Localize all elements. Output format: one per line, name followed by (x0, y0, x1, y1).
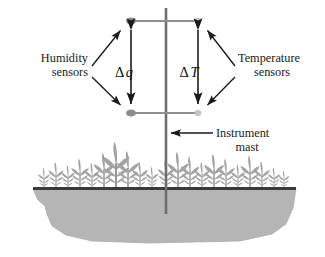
sensor-humidity-upper (126, 17, 136, 24)
plant (254, 161, 270, 188)
plant (279, 170, 290, 188)
svg-text:ΔT: ΔT (179, 64, 199, 80)
leader-humidity-to-lower (92, 77, 121, 105)
svg-text:Δq: Δq (115, 64, 133, 80)
plant (38, 168, 50, 188)
instrument-mast-label: Instrument mast (216, 126, 270, 154)
delta-t-variable: T (190, 64, 199, 80)
leader-temperature-to-lower (208, 77, 236, 105)
instrument-mast-label-line1: Instrument (216, 126, 270, 140)
soil-body (33, 189, 296, 243)
humidity-label-line1: Humidity (41, 51, 89, 65)
plant (146, 167, 159, 188)
delta-t-symbol: Δ (179, 64, 188, 80)
delta-q-variable: q (126, 64, 133, 80)
sensor-humidity-lower (126, 109, 136, 116)
temperature-label-line1: Temperature (238, 51, 300, 65)
delta-q-label: Δq (115, 64, 133, 80)
temperature-sensors-label: Temperature sensors (238, 51, 300, 79)
humidity-sensors-label: Humidity sensors (41, 51, 89, 79)
leader-temperature-to-upper (208, 31, 236, 67)
sensor-temperature-upper (195, 18, 202, 24)
delta-q-symbol: Δ (115, 64, 124, 80)
temperature-label-line2: sensors (254, 65, 290, 79)
plant (102, 142, 130, 188)
instrument-mast-label-line2: mast (235, 140, 259, 154)
plant (48, 162, 63, 188)
humidity-label-line2: sensors (52, 65, 88, 79)
delta-t-label: ΔT (179, 64, 199, 80)
leader-humidity-to-upper (92, 31, 121, 67)
instrument-mast-diagram: Humidity sensors Temperature sensors Ins… (0, 0, 325, 257)
sensor-temperature-lower (195, 110, 202, 116)
diagram-canvas: Humidity sensors Temperature sensors Ins… (0, 0, 325, 257)
